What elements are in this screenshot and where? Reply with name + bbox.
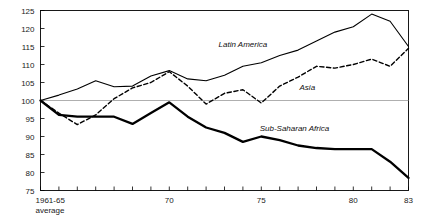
series-line-asia bbox=[41, 48, 409, 124]
chart-container: 7580859095100105110115120125 70758083 La… bbox=[0, 0, 423, 224]
annotation-asia: Asia bbox=[299, 83, 316, 92]
annotation-latin-america: Latin America bbox=[219, 40, 268, 49]
x-tick-label: 80 bbox=[349, 196, 358, 205]
y-tick-label: 80 bbox=[26, 169, 35, 178]
x-base-caption-line1: 1961-65 bbox=[36, 196, 66, 205]
x-base-caption-line2: average bbox=[36, 206, 65, 215]
x-tick-label: 70 bbox=[165, 196, 174, 205]
x-axis-labels: 70758083 bbox=[165, 196, 414, 205]
y-tick-label: 110 bbox=[22, 61, 35, 70]
series-annotations: Latin AmericaAsiaSub-Saharan Africa bbox=[219, 40, 330, 134]
x-axis-ticks bbox=[41, 187, 409, 191]
y-axis-labels: 7580859095100105110115120125 bbox=[21, 7, 35, 196]
y-tick-label: 85 bbox=[26, 151, 35, 160]
series-line-latin-america bbox=[41, 14, 409, 100]
y-tick-label: 120 bbox=[21, 25, 35, 34]
y-tick-label: 100 bbox=[21, 97, 35, 106]
y-tick-label: 105 bbox=[21, 79, 35, 88]
x-tick-label: 83 bbox=[404, 196, 413, 205]
y-tick-label: 125 bbox=[21, 7, 35, 16]
y-tick-label: 75 bbox=[26, 187, 35, 196]
line-chart: 7580859095100105110115120125 70758083 La… bbox=[0, 0, 423, 224]
y-tick-label: 115 bbox=[22, 43, 35, 52]
annotation-sub-saharan-africa: Sub-Saharan Africa bbox=[260, 124, 330, 133]
y-tick-label: 95 bbox=[26, 115, 35, 124]
y-tick-label: 90 bbox=[26, 133, 35, 142]
series-line-sub-saharan-africa bbox=[41, 101, 409, 178]
x-axis-base-caption: 1961-65average bbox=[36, 196, 66, 215]
x-tick-label: 75 bbox=[257, 196, 266, 205]
